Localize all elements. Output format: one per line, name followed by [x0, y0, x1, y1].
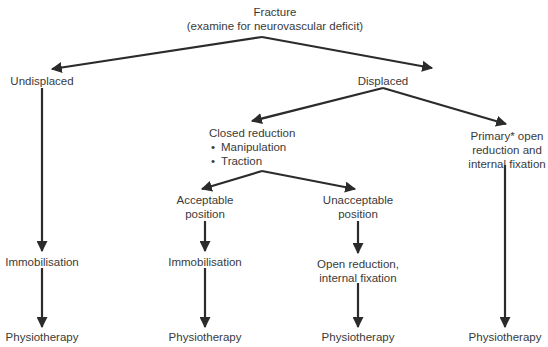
node-physiotherapy-1: Physiotherapy [6, 330, 79, 344]
node-undisplaced: Undisplaced [10, 74, 73, 88]
arrow-displaced-primary [383, 88, 506, 124]
bullet-manipulation: Manipulation [209, 140, 295, 154]
node-immobilisation-2: Immobilisation [168, 255, 242, 269]
closed-reduction-title: Closed reduction [209, 126, 295, 140]
node-orif: Open reduction, internal fixation [317, 257, 399, 285]
bullet-traction: Traction [209, 154, 295, 168]
acceptable-line-1: Acceptable [177, 193, 234, 207]
arrow-closed-acceptable [202, 171, 262, 189]
node-fracture: Fracture (examine for neurovascular defi… [187, 5, 363, 33]
node-physiotherapy-2: Physiotherapy [169, 330, 242, 344]
primary-orif-line-3: internal fixation [468, 157, 545, 171]
flowchart-connectors [0, 0, 548, 347]
fracture-subtitle: (examine for neurovascular deficit) [187, 19, 363, 33]
orif-line-1: Open reduction, [317, 257, 399, 271]
node-unacceptable: Unacceptable position [323, 193, 393, 221]
arrow-fracture-undisplaced [52, 37, 262, 69]
acceptable-line-2: position [177, 207, 234, 221]
arrow-closed-unacceptable [262, 171, 355, 189]
arrow-displaced-closed [252, 88, 383, 121]
arrow-fracture-displaced [262, 37, 432, 68]
unacceptable-line-2: position [323, 207, 393, 221]
node-physiotherapy-3: Physiotherapy [322, 330, 395, 344]
node-physiotherapy-4: Physiotherapy [469, 330, 542, 344]
fracture-title: Fracture [187, 5, 363, 19]
unacceptable-line-1: Unacceptable [323, 193, 393, 207]
node-displaced: Displaced [358, 74, 409, 88]
node-acceptable: Acceptable position [177, 193, 234, 221]
primary-orif-line-2: reduction and [468, 143, 545, 157]
orif-line-2: internal fixation [317, 271, 399, 285]
primary-orif-line-1: Primary* open [468, 129, 545, 143]
node-primary-orif: Primary* open reduction and internal fix… [468, 129, 545, 171]
node-closed-reduction: Closed reduction Manipulation Traction [209, 126, 295, 168]
node-immobilisation-1: Immobilisation [5, 255, 79, 269]
